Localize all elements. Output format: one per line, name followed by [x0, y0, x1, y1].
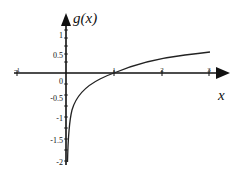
g-curve [68, 52, 211, 162]
x-axis-label: x [217, 87, 225, 103]
x-axis-arrow-icon [216, 67, 230, 79]
y-axis-arrow-icon [61, 13, 71, 26]
y-tick-label: 1 [59, 31, 63, 40]
function-plot: -1 1 2 3 1 0.5 0 -0.5 -1 -1.5 -2 g(x) x [0, 0, 242, 185]
origin-label: 0 [59, 77, 63, 86]
y-tick-label: 0.5 [53, 51, 63, 60]
y-axis-label: g(x) [73, 10, 97, 27]
x-tick-label: 3 [207, 66, 211, 74]
y-tick-label: -2 [56, 158, 63, 167]
x-tick-label: -1 [14, 66, 20, 74]
y-tick-label: -1.5 [50, 136, 63, 145]
y-tick-label: -1 [56, 114, 63, 123]
plot-svg: -1 1 2 3 1 0.5 0 -0.5 -1 -1.5 -2 g(x) x [0, 0, 242, 185]
x-tick-label: 2 [160, 66, 164, 74]
y-tick-label: -0.5 [50, 94, 63, 103]
